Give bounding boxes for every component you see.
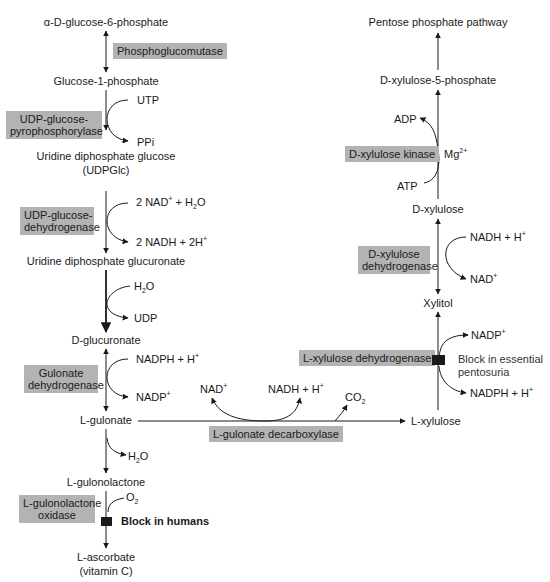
metabolite-g6p: α-D-glucose-6-phosphate bbox=[44, 16, 168, 29]
enzyme-udp-glucose-pyrophosphorylase: UDP-glucose-pyrophosphorylase bbox=[6, 111, 102, 139]
cofactor-nadp: NADP+ bbox=[136, 391, 171, 404]
metabolite-udp-glucuronate: Uridine diphosphate glucuronate bbox=[27, 255, 185, 268]
enzyme-l-xylulose-dehydrogenase: L-xylulose dehydrogenase bbox=[299, 350, 435, 366]
enzyme-l-gulonolactone-oxidase: L-gulonolactoneoxidase bbox=[19, 495, 95, 523]
cofactor-connector-nad: NAD+ bbox=[200, 383, 227, 396]
enzyme-label: UDP-glucose- bbox=[24, 209, 92, 221]
metabolite-d-xylulose-5-phosphate: D-xylulose-5-phosphate bbox=[380, 74, 496, 87]
enzyme-d-xylulose-dehydrogenase: D-xylulosedehydrogenase bbox=[358, 246, 430, 274]
enzyme-label-line2: pyrophosphorylase bbox=[10, 125, 103, 137]
cofactor-nadp-right: NADP+ bbox=[471, 329, 506, 342]
enzyme-label-line2: dehydrogenase bbox=[362, 260, 438, 272]
enzyme-udp-glucose-dehydrogenase: UDP-glucose-dehydrogenase bbox=[20, 207, 94, 235]
metabolite-l-gulonolactone: L-gulonolactone bbox=[67, 476, 145, 489]
cofactor-udp: UDP bbox=[134, 312, 157, 325]
cofactor-h2o-out: H2O bbox=[128, 450, 148, 463]
enzyme-label: D-xylulose bbox=[368, 248, 419, 260]
block-label-pentosuria: Block in essential bbox=[458, 353, 543, 366]
metabolite-udpglc: Uridine diphosphate glucose bbox=[37, 150, 176, 163]
block-marker-pentosuria bbox=[432, 355, 445, 365]
metabolite-vitamin-c: (vitamin C) bbox=[79, 565, 132, 578]
enzyme-label: Gulonate bbox=[39, 367, 84, 379]
enzyme-label-line2: oxidase bbox=[38, 509, 76, 521]
cofactor-ppi: PPi bbox=[137, 136, 154, 149]
cofactor-h2o-in: H2O bbox=[134, 280, 154, 293]
cofactor-mg: Mg2+ bbox=[444, 148, 467, 161]
cofactor-nadph-h: NADPH + H+ bbox=[136, 353, 199, 366]
enzyme-label: Phosphoglucomutase bbox=[117, 45, 223, 57]
enzyme-l-gulonate-decarboxylase: L-gulonate decarboxylase bbox=[209, 426, 343, 442]
cofactor-connector-nadh-h: NADH + H+ bbox=[268, 383, 324, 396]
metabolite-pentose-phosphate-pathway: Pentose phosphate pathway bbox=[369, 16, 508, 29]
cofactor-nadph-h-right: NADPH + H+ bbox=[470, 387, 533, 400]
metabolite-l-ascorbate: L-ascorbate bbox=[77, 551, 135, 564]
cofactor-nad-h2o: 2 NAD+ + H2O bbox=[136, 196, 205, 209]
cofactor-co2: CO2 bbox=[345, 391, 365, 404]
metabolite-udpglc-abbr: (UDPGlc) bbox=[82, 164, 129, 177]
cofactor-nadh-h-right: NADH + H+ bbox=[470, 231, 526, 244]
enzyme-label: L-gulonate decarboxylase bbox=[213, 428, 339, 440]
enzyme-label: UDP-glucose- bbox=[20, 113, 88, 125]
metabolite-xylitol: Xylitol bbox=[423, 297, 452, 310]
enzyme-phosphoglucomutase: Phosphoglucomutase bbox=[113, 43, 227, 59]
block-marker-humans bbox=[101, 517, 112, 526]
enzyme-label: D-xylulose kinase bbox=[349, 148, 435, 160]
metabolite-d-xylulose: D-xylulose bbox=[412, 203, 463, 216]
enzyme-d-xylulose-kinase: D-xylulose kinase bbox=[345, 146, 439, 162]
enzyme-label-line2: dehydrogenase bbox=[28, 379, 104, 391]
enzyme-gulonate-dehydrogenase: Gulonatedehydrogenase bbox=[24, 365, 98, 393]
metabolite-g1p: Glucose-1-phosphate bbox=[53, 75, 158, 88]
cofactor-nadh-2h: 2 NADH + 2H+ bbox=[136, 236, 207, 249]
enzyme-label-line2: dehydrogenase bbox=[24, 221, 100, 233]
enzyme-label: L-xylulose dehydrogenase bbox=[303, 352, 431, 364]
cofactor-o2: O2 bbox=[126, 491, 138, 504]
block-label-humans: Block in humans bbox=[121, 515, 209, 528]
metabolite-l-gulonate: L-gulonate bbox=[80, 414, 132, 427]
metabolite-d-glucuronate: D-glucuronate bbox=[71, 334, 140, 347]
cofactor-nad-right: NAD+ bbox=[470, 273, 497, 286]
cofactor-utp: UTP bbox=[137, 94, 159, 107]
cofactor-atp: ATP bbox=[397, 180, 418, 193]
enzyme-label: L-gulonolactone bbox=[23, 497, 101, 509]
cofactor-adp: ADP bbox=[394, 113, 417, 126]
block-label-pentosuria-line2: pentosuria bbox=[458, 366, 509, 379]
metabolite-l-xylulose: L-xylulose bbox=[411, 415, 461, 428]
